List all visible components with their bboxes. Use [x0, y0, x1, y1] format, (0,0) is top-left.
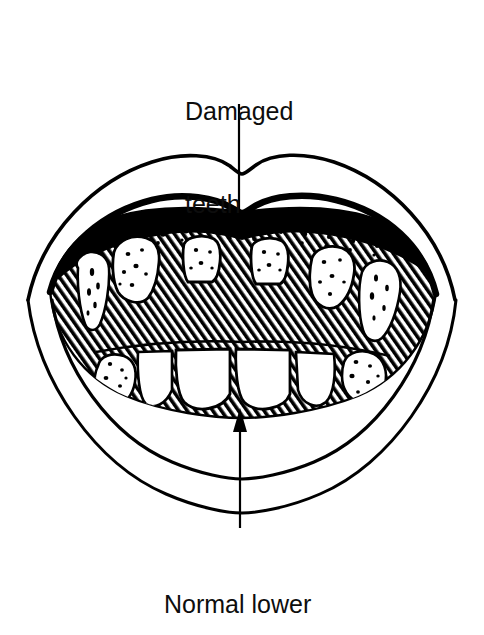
upper-tooth-left-lateral: [113, 237, 159, 302]
damaged-teeth-label: Damaged teeth: [185, 34, 293, 282]
dental-illustration-figure: Damaged teeth Normal lower central teeth: [0, 0, 484, 635]
damaged-teeth-label-line1: Damaged: [185, 96, 293, 127]
normal-lower-teeth-leader-arrow: [233, 408, 247, 528]
lower-tooth-left-lateral: [138, 351, 172, 406]
normal-lower-teeth-label-line1: Normal lower: [164, 589, 311, 620]
lower-tooth-right-posterior: [342, 351, 386, 402]
lower-tooth-right-lateral: [296, 352, 335, 406]
lower-tooth-central-left: [176, 349, 230, 409]
damaged-teeth-label-line2: teeth: [185, 189, 293, 220]
lower-tooth-central-right: [236, 349, 290, 409]
normal-lower-central-teeth-label: Normal lower central teeth: [164, 527, 311, 635]
